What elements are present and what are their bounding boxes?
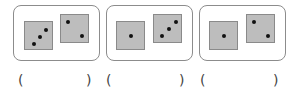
dice-group-1 — [13, 5, 100, 61]
dice-group-3 — [199, 5, 286, 61]
answer-open-paren-3: ( — [200, 73, 205, 87]
pip — [80, 34, 84, 38]
pip — [44, 28, 48, 32]
pip — [129, 34, 133, 38]
answer-open-paren-1: ( — [18, 73, 23, 87]
die-three — [24, 21, 53, 50]
pip — [167, 27, 171, 31]
die-one — [209, 21, 238, 50]
pip — [174, 20, 178, 24]
pip — [38, 35, 42, 39]
die-one — [116, 21, 145, 50]
pip — [222, 34, 226, 38]
answer-open-paren-2: ( — [106, 73, 111, 87]
pip — [32, 42, 36, 46]
die-two — [60, 14, 89, 43]
answer-close-paren-3: ) — [273, 73, 278, 87]
answer-close-paren-1: ) — [86, 73, 91, 87]
pip — [266, 34, 270, 38]
pip — [160, 34, 164, 38]
answer-close-paren-2: ) — [179, 73, 184, 87]
dice-group-2 — [106, 5, 193, 61]
pip — [252, 20, 256, 24]
die-two — [246, 14, 275, 43]
pip — [66, 20, 70, 24]
die-three — [153, 14, 182, 43]
